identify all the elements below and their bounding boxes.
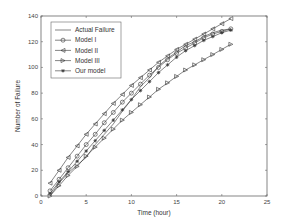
y-tick-label: 120 — [28, 39, 39, 45]
star-marker — [175, 55, 179, 59]
star-marker — [48, 192, 52, 196]
y-axis-label: Number of Failure — [14, 80, 21, 132]
star-marker — [148, 80, 152, 84]
line-chart: 0510152025020406080100120140 Time (hour)… — [0, 0, 282, 224]
x-axis-label: Time (hour) — [137, 209, 170, 217]
star-marker — [130, 98, 134, 102]
star-marker — [211, 35, 215, 39]
y-tick-label: 40 — [31, 142, 38, 148]
y-tick-label: 60 — [31, 116, 38, 122]
x-tick-label: 10 — [128, 199, 135, 205]
y-tick-label: 20 — [31, 167, 38, 173]
legend-label: Actual Failure — [75, 26, 115, 33]
y-tick-label: 100 — [28, 64, 39, 70]
y-tick-label: 140 — [28, 13, 39, 19]
x-tick-label: 25 — [264, 199, 271, 205]
star-marker — [112, 118, 116, 122]
legend-label: Model I — [75, 36, 97, 43]
star-marker — [61, 69, 65, 73]
star-marker — [121, 108, 125, 112]
legend-label: Our model — [75, 67, 106, 74]
star-marker — [75, 159, 79, 163]
star-marker — [157, 71, 161, 75]
x-tick-label: 20 — [218, 199, 225, 205]
legend-label: Model III — [75, 57, 100, 64]
x-tick-label: 15 — [173, 199, 180, 205]
star-marker — [93, 139, 97, 143]
star-marker — [220, 31, 224, 35]
legend-label: Model II — [75, 47, 98, 54]
star-marker — [184, 49, 188, 53]
star-marker — [193, 44, 197, 48]
star-marker — [102, 129, 106, 133]
legend: Actual FailureModel IModel IIModel IIIOu… — [51, 22, 121, 78]
y-tick-label: 80 — [31, 90, 38, 96]
chart-background — [0, 0, 282, 224]
star-marker — [66, 170, 70, 174]
